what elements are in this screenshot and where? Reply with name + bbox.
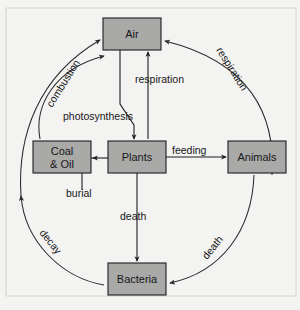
- node-plants[interactable]: Plants: [108, 141, 166, 173]
- edge-label-respiration-right: respiration: [214, 45, 250, 93]
- edge-photosynthesis-line: [120, 50, 134, 139]
- node-animals[interactable]: Animals: [228, 141, 286, 173]
- edge-label-death-center: death: [120, 210, 146, 222]
- node-animals-label: Animals: [237, 151, 277, 163]
- edge-label-death-right: death: [199, 233, 225, 261]
- edge-label-photosynthesis: photosynthesis: [63, 110, 133, 122]
- node-plants-label: Plants: [122, 151, 153, 163]
- edge-label-feeding: feeding: [172, 144, 207, 156]
- edge-decay-line: [21, 196, 104, 285]
- node-coal-oil[interactable]: Coal & Oil: [33, 141, 91, 173]
- edge-death-right-line: [170, 175, 254, 283]
- node-bacteria-label: Bacteria: [117, 273, 158, 285]
- edge-label-combustion: combustion: [44, 57, 83, 109]
- edge-label-respiration-center: respiration: [135, 73, 184, 85]
- node-bacteria[interactable]: Bacteria: [108, 263, 166, 295]
- edge-label-decay: decay: [37, 227, 64, 257]
- node-air-label: Air: [125, 28, 139, 40]
- carbon-cycle-diagram: Air Coal & Oil Plants Animals Bacteria p…: [0, 0, 300, 310]
- edge-label-burial: burial: [66, 187, 92, 199]
- node-air[interactable]: Air: [103, 18, 161, 50]
- diagram-canvas: Air Coal & Oil Plants Animals Bacteria p…: [0, 0, 300, 310]
- node-coal-oil-label-line1: Coal: [51, 145, 74, 157]
- node-coal-oil-label-line2: & Oil: [50, 158, 74, 170]
